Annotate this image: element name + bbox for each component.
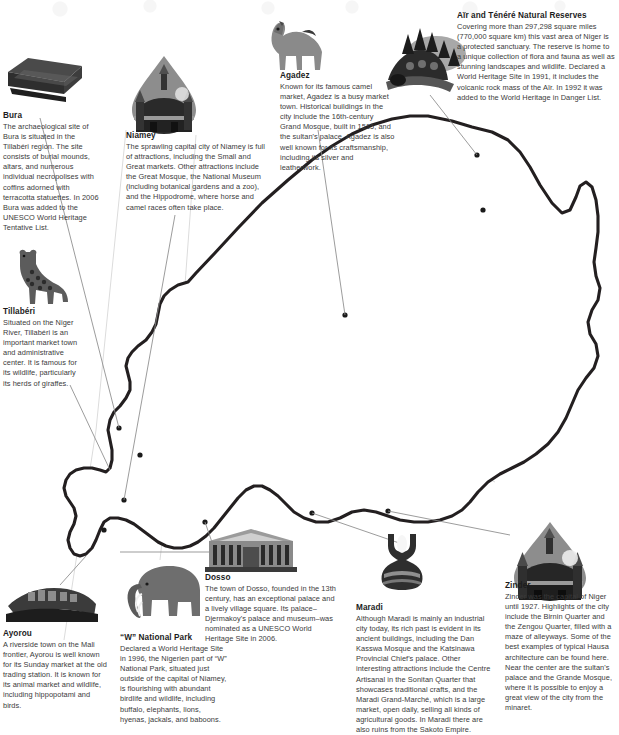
riverside-town-icon xyxy=(6,578,98,624)
camel-icon xyxy=(258,12,332,78)
info-title: Aïr and Ténéré Natural Reserves xyxy=(457,10,615,21)
info-body: Although Maradi is mainly an industrial … xyxy=(356,614,492,735)
info-body: Covering more than 297,298 square miles … xyxy=(457,22,615,103)
leader-line-tillaberi xyxy=(70,385,110,470)
pottery-vase-icon xyxy=(374,530,430,592)
giraffe-icon xyxy=(6,240,76,312)
info-block-ayorou: Ayorou A riverside town on the Mali fron… xyxy=(3,628,109,711)
info-title: Tillabéri xyxy=(3,306,83,317)
info-block-agadez: Agadez Known for its famous camel market… xyxy=(280,70,396,173)
mosque-dome-icon xyxy=(120,54,208,134)
info-title: Zinder xyxy=(505,580,615,591)
info-block-zinder: Zinder Zinder was the capital of Niger u… xyxy=(505,580,615,713)
info-body: Declared a World Heritage Site in 1996, … xyxy=(120,644,228,725)
info-block-dosso: Dosso The town of Dosso, founded in the … xyxy=(205,572,339,645)
info-block-niamey: Niamey The sprawling capital city of Nia… xyxy=(126,130,268,213)
info-block-w-national-park: “W” National Park Declared a World Herit… xyxy=(120,632,228,725)
elephant-icon xyxy=(120,560,206,632)
marker-tillaberi xyxy=(137,452,142,457)
palace-building-icon xyxy=(205,527,297,573)
info-title: Niamey xyxy=(126,130,268,141)
info-title: Dosso xyxy=(205,572,339,583)
info-block-maradi: Maradi Although Maradi is mainly an indu… xyxy=(356,602,492,735)
marker-agadez xyxy=(480,207,485,212)
info-title: Agadez xyxy=(280,70,396,81)
info-body: The town of Dosso, founded in the 13th c… xyxy=(205,584,339,645)
info-body: Zinder was the capital of Niger until 19… xyxy=(505,592,615,713)
marker-ayorou xyxy=(101,527,106,532)
info-body: Situated on the Niger River, Tillabéri i… xyxy=(3,318,83,389)
info-body: The sprawling capital city of Niamey is … xyxy=(126,142,268,213)
info-title: Maradi xyxy=(356,602,492,613)
info-body: The archaeological site of Bura is situa… xyxy=(3,122,99,233)
sarcophagus-icon xyxy=(2,32,88,104)
info-block-tillaberi: Tillabéri Situated on the Niger River, T… xyxy=(3,306,83,389)
info-block-air-tenere: Aïr and Ténéré Natural Reserves Covering… xyxy=(457,10,615,103)
info-body: A riverside town on the Mali frontier, A… xyxy=(3,640,109,711)
info-title: Ayorou xyxy=(3,628,109,639)
info-block-bura: Bura The archaeological site of Bura is … xyxy=(3,110,99,233)
info-body: Known for its famous camel market, Agade… xyxy=(280,82,396,173)
info-title: Bura xyxy=(3,110,99,121)
